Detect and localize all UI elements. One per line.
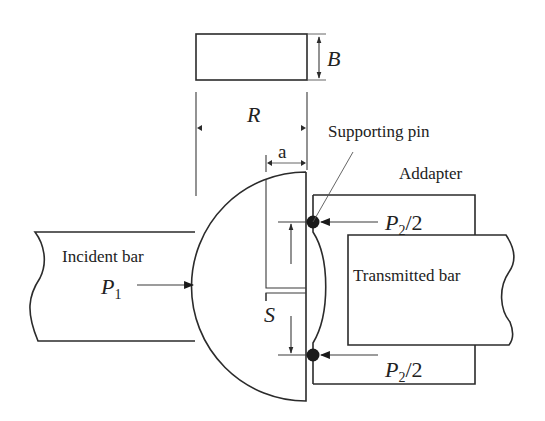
incident-bar-label: Incident bar — [62, 247, 144, 266]
thickness-label-b: B — [327, 46, 340, 71]
span-label-s: S — [264, 302, 275, 327]
supporting-pin-leader — [313, 152, 353, 222]
incident-bar: Incident bar P1 — [30, 232, 195, 341]
transmitted-bar-label: Transmitted bar — [353, 266, 461, 285]
semi-circular-bend-test-diagram: B R a S — [0, 0, 545, 421]
reaction-force-top: P2/2 — [321, 210, 423, 238]
crack-length-dimension: a — [266, 141, 306, 172]
svg-text:P2/2: P2/2 — [384, 210, 423, 238]
incident-force-label: P1 — [100, 274, 121, 302]
supporting-pin-label: Supporting pin — [328, 122, 430, 141]
radius-dimension: R — [196, 92, 307, 196]
semi-circular-specimen — [192, 172, 306, 401]
reaction-force-bottom: P2/2 — [321, 355, 423, 385]
radius-label-r: R — [246, 102, 261, 127]
adapter-label: Addapter — [399, 164, 463, 183]
transmitted-bar: Transmitted bar — [348, 235, 514, 345]
crack-length-label-a: a — [278, 141, 287, 162]
bottom-support-pin — [307, 349, 320, 362]
supporting-pins: Supporting pin — [307, 122, 431, 362]
specimen-cross-section: B — [196, 34, 340, 80]
svg-text:P2/2: P2/2 — [384, 357, 423, 385]
